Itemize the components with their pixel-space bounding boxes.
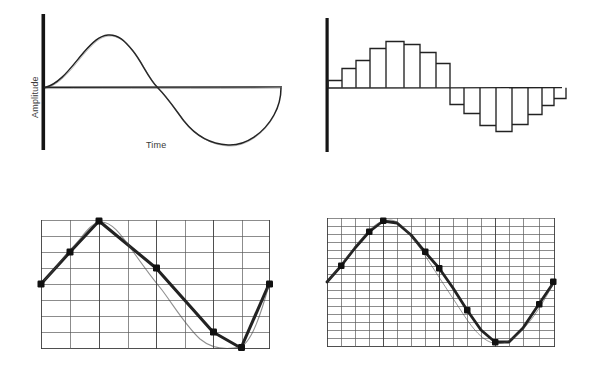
eight-bit-source-sine <box>41 222 269 349</box>
y-axis-bar <box>42 14 46 150</box>
panel-16bit: 16 bits 16 samples per second <box>300 190 595 385</box>
quantized-plot <box>300 0 595 190</box>
sixteen-bit-plot <box>300 190 595 385</box>
panel-8bit: 8 bits 8 samples per second <box>0 190 300 385</box>
eight-bit-plot <box>0 190 300 385</box>
figure-canvas: Amplitude Time Bits Samples <box>0 0 595 385</box>
waveform-x-axis-label: Time <box>146 140 166 150</box>
waveform-y-axis-label: Amplitude <box>30 76 40 118</box>
eight-bit-grid <box>41 220 270 349</box>
waveform-plot <box>0 0 300 190</box>
x-axis-baseline-shadow <box>45 88 281 89</box>
quantized-bars-negative <box>450 88 566 132</box>
quantized-bars-positive <box>328 42 450 88</box>
sixteen-bit-source-sine <box>327 220 554 344</box>
sixteen-bit-grid <box>327 218 555 347</box>
panel-quantized: Bits Samples <box>300 0 595 190</box>
panel-waveform: Amplitude Time <box>0 0 300 190</box>
sine-curve-texture <box>45 36 274 146</box>
sine-curve <box>45 35 281 145</box>
